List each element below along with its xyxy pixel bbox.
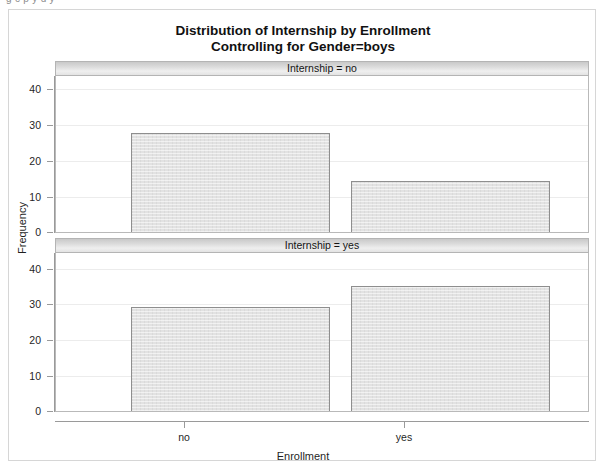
- x-axis-line: [55, 421, 589, 422]
- panel-plot-internship-yes: [55, 253, 589, 412]
- y-axis-line-top-panel: [54, 76, 55, 233]
- gridline-0: [56, 411, 588, 412]
- gridline-40: [56, 269, 588, 270]
- bar-internship-yes-enrollment-yes[interactable]: [351, 286, 550, 412]
- x-tick-label-yes: yes: [374, 431, 434, 443]
- y-tick-mark-top-10: [47, 197, 53, 198]
- panel-header-internship-no: Internship = no: [55, 61, 589, 76]
- y-tick-mark-bottom-30: [47, 304, 53, 305]
- y-tick-label-top-20: 20: [17, 156, 41, 166]
- y-tick-label-bottom-10: 10: [17, 371, 41, 381]
- y-tick-mark-bottom-10: [47, 376, 53, 377]
- scan-edge-artifact: g c p y d y: [0, 0, 604, 7]
- y-tick-label-top-0: 0: [17, 227, 41, 237]
- y-tick-mark-bottom-20: [47, 340, 53, 341]
- y-tick-label-top-30: 30: [17, 120, 41, 130]
- y-tick-label-top-40: 40: [17, 84, 41, 94]
- gridline-0: [56, 232, 588, 233]
- plot-area: Frequency Internship = no 40 30 20 10 0 …: [9, 10, 597, 462]
- bar-internship-no-enrollment-yes[interactable]: [351, 181, 550, 233]
- y-tick-mark-top-30: [47, 125, 53, 126]
- y-tick-mark-top-20: [47, 161, 53, 162]
- panel-header-internship-yes: Internship = yes: [55, 238, 589, 253]
- panel-plot-internship-no: [55, 76, 589, 233]
- bar-internship-yes-enrollment-no[interactable]: [131, 307, 330, 412]
- y-tick-label-bottom-40: 40: [17, 264, 41, 274]
- bar-internship-no-enrollment-no[interactable]: [131, 133, 330, 233]
- y-tick-mark-bottom-0: [47, 411, 53, 412]
- y-tick-mark-bottom-40: [47, 269, 53, 270]
- gridline-30: [56, 125, 588, 126]
- y-tick-mark-top-40: [47, 89, 53, 90]
- y-tick-mark-top-0: [47, 232, 53, 233]
- y-tick-label-bottom-0: 0: [17, 406, 41, 416]
- x-tick-mark-no: [184, 422, 185, 428]
- y-tick-label-top-10: 10: [17, 192, 41, 202]
- y-tick-label-bottom-30: 30: [17, 299, 41, 309]
- scan-edge-text: g c p y d y: [6, 0, 55, 4]
- gridline-40: [56, 89, 588, 90]
- y-tick-label-bottom-20: 20: [17, 335, 41, 345]
- x-tick-label-no: no: [154, 431, 214, 443]
- figure-card: Distribution of Internship by Enrollment…: [8, 9, 596, 461]
- y-axis-line-bottom-panel: [54, 253, 55, 412]
- x-axis-title: Enrollment: [9, 450, 597, 462]
- x-tick-mark-yes: [404, 422, 405, 428]
